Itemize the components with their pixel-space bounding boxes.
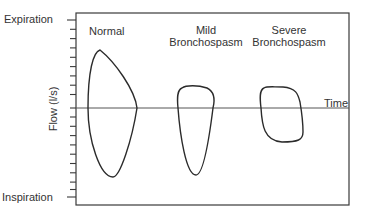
severe-loop-label: Severe Bronchospasm — [243, 24, 335, 48]
severe-label-line1: Severe — [243, 24, 335, 36]
normal-loop-label: Normal — [89, 25, 124, 37]
mild-label-line2: Bronchospasm — [160, 36, 252, 48]
normal-label-text: Normal — [89, 25, 124, 37]
time-axis-label: Time — [324, 97, 348, 109]
severe-bronchospasm-loop — [260, 87, 303, 142]
mild-loop-label: Mild Bronchospasm — [160, 24, 252, 48]
mild-bronchospasm-loop — [177, 86, 214, 175]
y-axis-ticks — [67, 20, 76, 197]
mild-label-line1: Mild — [160, 24, 252, 36]
severe-label-line2: Bronchospasm — [243, 36, 335, 48]
y-axis-title: Flow (l/s) — [47, 87, 59, 132]
expiration-label: Expiration — [4, 13, 53, 25]
inspiration-label: Inspiration — [2, 191, 53, 203]
normal-loop — [88, 50, 137, 177]
